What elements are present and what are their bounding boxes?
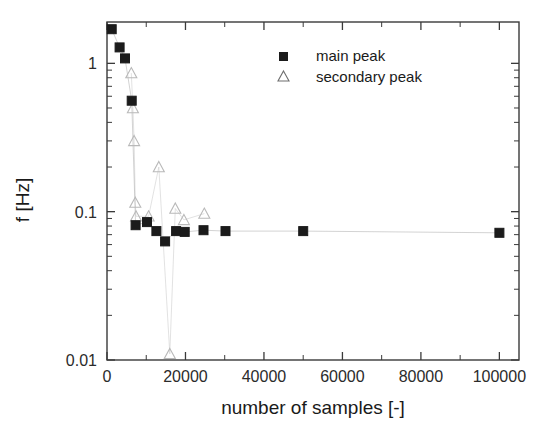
data-point-main-peak bbox=[152, 227, 161, 236]
y-tick-label: 0.01 bbox=[66, 352, 97, 369]
chart-legend: main peak secondary peak bbox=[278, 47, 422, 85]
secondary-peak-line bbox=[131, 73, 204, 354]
data-point-main-peak bbox=[115, 43, 124, 52]
plot-frame bbox=[107, 22, 519, 360]
x-tick-label: 80000 bbox=[399, 368, 444, 385]
data-point-main-peak bbox=[299, 227, 308, 236]
data-point-main-peak bbox=[172, 227, 181, 236]
data-point-main-peak bbox=[161, 237, 170, 246]
data-point-main-peak bbox=[131, 221, 140, 230]
y-axis-minor-ticks bbox=[107, 70, 519, 315]
chart-figure: 020000400006000080000100000 0.010.11 num… bbox=[0, 0, 556, 441]
legend-marker-main-peak bbox=[279, 52, 288, 61]
main-peak-points bbox=[107, 25, 504, 246]
data-point-main-peak bbox=[107, 25, 116, 34]
x-axis-tick-labels: 020000400006000080000100000 bbox=[103, 368, 527, 385]
x-tick-label: 60000 bbox=[320, 368, 365, 385]
x-axis-major-ticks bbox=[107, 22, 499, 360]
data-point-main-peak bbox=[180, 227, 189, 236]
x-tick-label: 20000 bbox=[163, 368, 208, 385]
data-point-main-peak bbox=[127, 96, 136, 105]
y-axis-major-ticks bbox=[107, 63, 519, 360]
x-tick-label: 100000 bbox=[473, 368, 526, 385]
data-point-main-peak bbox=[495, 228, 504, 237]
y-tick-label: 1 bbox=[88, 55, 97, 72]
y-axis-tick-labels: 0.010.11 bbox=[66, 55, 97, 369]
x-axis-title: number of samples [-] bbox=[221, 397, 405, 418]
y-tick-label: 0.1 bbox=[75, 204, 97, 221]
data-point-main-peak bbox=[199, 226, 208, 235]
secondary-peak-trend-line bbox=[131, 73, 204, 354]
y-axis-title: f [Hz] bbox=[12, 178, 33, 222]
main-peak-line bbox=[112, 29, 500, 241]
x-tick-label: 40000 bbox=[242, 368, 287, 385]
data-point-main-peak bbox=[143, 218, 152, 227]
legend-label-secondary-peak: secondary peak bbox=[316, 68, 422, 85]
main-peak-trend-line bbox=[112, 29, 500, 241]
x-tick-label: 0 bbox=[103, 368, 112, 385]
data-point-main-peak bbox=[121, 54, 130, 63]
legend-marker-secondary-peak bbox=[278, 71, 289, 81]
data-point-main-peak bbox=[221, 227, 230, 236]
scatter-plot: 020000400006000080000100000 0.010.11 num… bbox=[0, 0, 556, 441]
legend-label-main-peak: main peak bbox=[316, 47, 386, 64]
data-point-secondary-peak bbox=[199, 208, 210, 218]
